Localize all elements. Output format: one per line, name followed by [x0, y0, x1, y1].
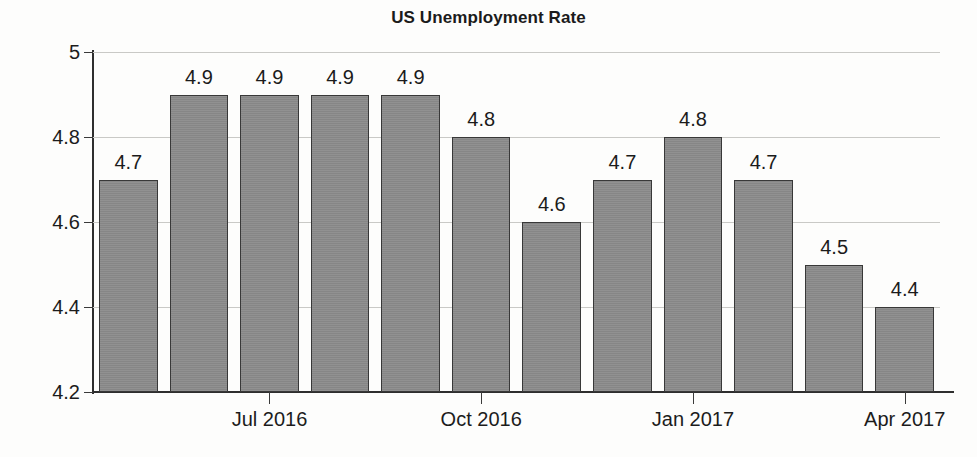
x-axis-tick-label: Jan 2017 [652, 408, 734, 431]
bar-value-label: 4.4 [891, 278, 919, 301]
bar [452, 137, 511, 392]
y-axis-tick [84, 137, 93, 138]
bar-value-label: 4.9 [256, 66, 284, 89]
bar-value-label: 4.9 [326, 66, 354, 89]
bar [593, 180, 652, 393]
bar [664, 137, 723, 392]
y-axis-tick-label: 5 [6, 41, 80, 64]
bar [734, 180, 793, 393]
gridline [93, 52, 940, 53]
y-axis-tick-label: 4.2 [6, 381, 80, 404]
chart-container: US Unemployment Rate 4.24.44.64.85 Jul 2… [0, 0, 977, 457]
bar-value-label: 4.9 [185, 66, 213, 89]
bar-value-label: 4.5 [820, 236, 848, 259]
bar-value-label: 4.7 [608, 151, 636, 174]
y-axis-tick-label: 4.4 [6, 296, 80, 319]
chart-title: US Unemployment Rate [0, 8, 977, 28]
bar-value-label: 4.8 [467, 108, 495, 131]
bar [805, 265, 864, 393]
x-axis-tick-label: Apr 2017 [864, 408, 945, 431]
y-axis-tick [84, 52, 93, 53]
plot-area [93, 52, 940, 392]
bar [240, 95, 299, 393]
bar-value-label: 4.7 [114, 151, 142, 174]
bar-value-label: 4.7 [750, 151, 778, 174]
x-axis-tick [481, 392, 482, 404]
y-axis-tick [84, 222, 93, 223]
bar-value-label: 4.9 [397, 66, 425, 89]
bar [381, 95, 440, 393]
y-axis-tick-label: 4.6 [6, 211, 80, 234]
x-axis-tick [693, 392, 694, 404]
bar-value-label: 4.6 [538, 193, 566, 216]
bar [311, 95, 370, 393]
bar [170, 95, 229, 393]
bar [99, 180, 158, 393]
x-axis-tick-label: Jul 2016 [232, 408, 308, 431]
x-axis-tick [269, 392, 270, 404]
y-axis-tick-label: 4.8 [6, 126, 80, 149]
bar [522, 222, 581, 392]
x-axis-tick [905, 392, 906, 404]
bar-value-label: 4.8 [679, 108, 707, 131]
y-axis-tick [84, 307, 93, 308]
y-axis-tick [84, 392, 93, 393]
bar [875, 307, 934, 392]
x-axis-tick-label: Oct 2016 [441, 408, 522, 431]
